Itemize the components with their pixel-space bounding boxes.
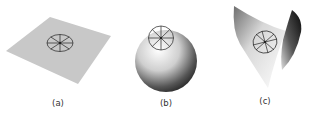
panel-c: (c) bbox=[234, 6, 302, 106]
curvature-figure: (a) (b) (c) bbox=[0, 0, 314, 117]
flat-plane bbox=[6, 17, 111, 84]
panel-a: (a) bbox=[6, 17, 111, 108]
caption-b: (b) bbox=[160, 98, 172, 108]
spoke-circle-icon bbox=[47, 35, 73, 52]
caption-a: (a) bbox=[52, 98, 64, 108]
saddle-right-wing bbox=[281, 10, 301, 70]
caption-c: (c) bbox=[259, 96, 270, 106]
panel-b: (b) bbox=[135, 26, 197, 108]
sphere bbox=[135, 30, 197, 92]
spoke-circle-icon bbox=[149, 26, 174, 50]
